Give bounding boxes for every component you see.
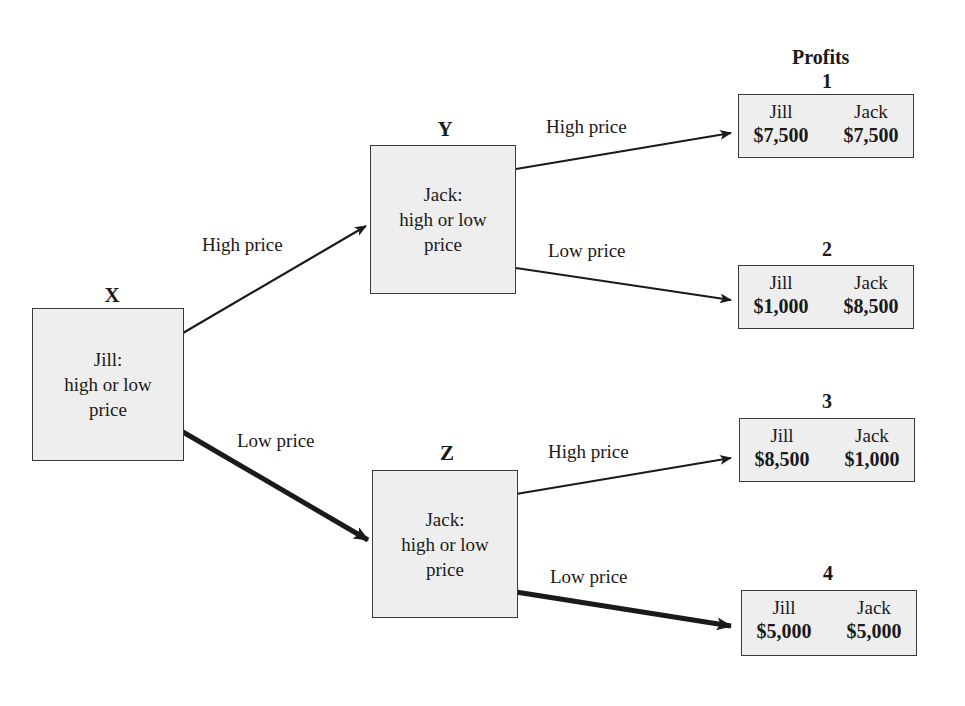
outcome-1-number: 1 xyxy=(812,70,842,93)
outcome-1-jill-profit: $7,500 xyxy=(745,123,817,147)
edge-y-to-outcome1-arrow xyxy=(516,133,731,169)
outcome-3-box: Jill $8,500 Jack $1,000 xyxy=(739,418,915,482)
edge-z-to-outcome4-arrow xyxy=(516,592,731,626)
node-y-line2: high or low xyxy=(399,207,487,232)
outcome-2-jill-profit: $1,000 xyxy=(745,294,817,318)
outcome-4-jill-profit: $5,000 xyxy=(748,619,820,643)
profits-title: Profits xyxy=(792,46,849,69)
node-x-line2: high or low xyxy=(64,372,152,397)
outcome-2-jack-profit: $8,500 xyxy=(833,294,909,318)
outcome-1-jill-label: Jill xyxy=(745,101,817,123)
edge-x-to-z-label: Low price xyxy=(237,430,315,452)
node-y-title: Y xyxy=(425,117,465,142)
outcome-4-number: 4 xyxy=(813,562,843,585)
outcome-4-jill-label: Jill xyxy=(748,597,820,619)
node-x-title: X xyxy=(92,283,132,308)
node-x-player: Jill: xyxy=(94,347,123,372)
edge-z-to-outcome3-arrow xyxy=(516,458,731,494)
edge-y-to-outcome2-label: Low price xyxy=(548,240,626,262)
edge-z-to-outcome4-label: Low price xyxy=(550,566,628,588)
outcome-1-box: Jill $7,500 Jack $7,500 xyxy=(738,94,914,158)
outcome-3-jack-profit: $1,000 xyxy=(834,447,910,471)
outcome-4-jack-label: Jack xyxy=(836,597,912,619)
node-y-line3: price xyxy=(424,232,462,257)
outcome-1-jack-label: Jack xyxy=(833,101,909,123)
edge-y-to-outcome1-label: High price xyxy=(546,116,627,138)
outcome-2-number: 2 xyxy=(812,238,842,261)
node-z-line2: high or low xyxy=(401,532,489,557)
outcome-3-jack-label: Jack xyxy=(834,425,910,447)
outcome-1-jack-profit: $7,500 xyxy=(833,123,909,147)
node-z-title: Z xyxy=(427,441,467,466)
game-tree-diagram: X Jill: high or low price Y Jack: high o… xyxy=(0,0,965,706)
node-z-line3: price xyxy=(426,557,464,582)
node-z-box: Jack: high or low price xyxy=(372,470,518,618)
node-z-player: Jack: xyxy=(425,507,464,532)
node-x-line3: price xyxy=(89,397,127,422)
outcome-4-box: Jill $5,000 Jack $5,000 xyxy=(741,590,917,656)
node-y-player: Jack: xyxy=(423,182,462,207)
outcome-2-box: Jill $1,000 Jack $8,500 xyxy=(738,265,914,329)
outcome-2-jack-label: Jack xyxy=(833,272,909,294)
outcome-4-jack-profit: $5,000 xyxy=(836,619,912,643)
edge-z-to-outcome3-label: High price xyxy=(548,441,629,463)
outcome-2-jill-label: Jill xyxy=(745,272,817,294)
node-y-box: Jack: high or low price xyxy=(370,145,516,294)
node-x-box: Jill: high or low price xyxy=(32,308,184,461)
edge-x-to-y-label: High price xyxy=(202,234,283,256)
edge-y-to-outcome2-arrow xyxy=(516,268,731,300)
outcome-3-jill-profit: $8,500 xyxy=(746,447,818,471)
outcome-3-jill-label: Jill xyxy=(746,425,818,447)
outcome-3-number: 3 xyxy=(812,390,842,413)
